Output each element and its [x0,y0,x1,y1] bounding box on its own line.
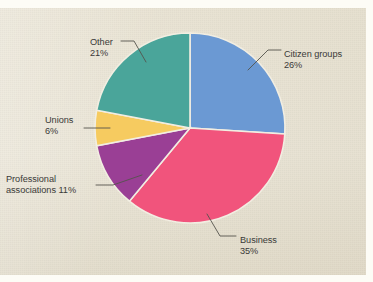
pie-label-unions-name: Unions [45,115,73,125]
pie-label-professional-associations: Professional associations 11% [6,163,76,208]
pie-label-unions: Unions 6% [45,104,73,149]
pie-label-unions-value: 6% [45,126,73,137]
pie-label-business: Business 35% [240,224,277,269]
pie-label-other-name: Other [90,37,113,47]
pie-label-citizen-groups-value: 26% [284,60,342,71]
pie-label-citizen-groups: Citizen groups 26% [284,38,342,83]
pie-label-other: Other 21% [90,26,113,71]
pie-label-business-value: 35% [240,246,277,257]
pie-label-business-name: Business [240,235,277,245]
chart-figure: Citizen groups 26% Other 21% Unions 6% P… [0,0,373,282]
pie-slice-citizen-groups[interactable] [190,33,285,134]
pie-label-other-value: 21% [90,48,113,59]
pie-label-citizen-groups-name: Citizen groups [284,49,342,59]
pie-label-professional-line1: Professional [6,174,56,184]
pie-label-professional-line2: associations 11% [6,185,76,196]
